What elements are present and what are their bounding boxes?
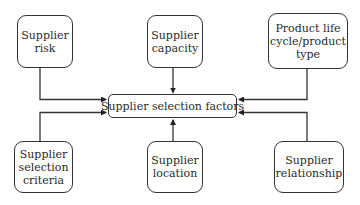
- node-supplier-location: Supplier location: [147, 141, 203, 193]
- center-node-supplier-selection-factors: Supplier selection factors: [108, 94, 237, 118]
- node-supplier-risk: Supplier risk: [17, 15, 73, 68]
- node-product-life-cycle: Product life cycle/product type: [268, 13, 348, 69]
- edge-risk: [40, 67, 106, 100]
- node-supplier-selection-criteria: Supplier selection criteria: [14, 141, 73, 193]
- node-supplier-capacity: Supplier capacity: [147, 15, 203, 68]
- edge-lifecycle: [239, 68, 307, 100]
- diagram-canvas: Supplier selection factors Supplier risk…: [0, 0, 360, 205]
- node-supplier-relationship: Supplier relationship: [274, 141, 344, 193]
- edge-relationship: [239, 113, 307, 142]
- edge-criteria: [40, 113, 106, 142]
